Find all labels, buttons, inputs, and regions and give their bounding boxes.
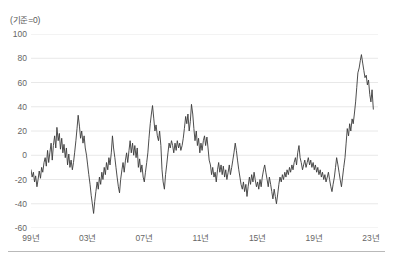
y-axis-note: (기준=0) [10,13,40,25]
x-axis-tick-label: 99년 [22,231,39,243]
x-axis-tick-label: 19년 [306,231,323,243]
x-axis-tick-label: 07년 [136,231,153,243]
y-axis-tick-label: 60 [18,78,27,88]
x-axis-tick-label: 23년 [362,231,379,243]
bottom-divider [8,251,385,252]
plot-area [31,34,378,228]
y-axis-tick-label: -40 [15,199,27,209]
line-chart-svg [31,34,378,228]
y-axis-tick-label: 0 [22,150,27,160]
y-axis-tick-label: 40 [18,102,27,112]
y-axis-tick-label: 100 [13,29,27,39]
x-axis-tick-label: 15년 [249,231,266,243]
y-axis-tick-label: 20 [18,126,27,136]
x-axis-tick-label: 11년 [193,231,210,243]
y-axis-tick-label: 80 [18,53,27,63]
series-line [31,55,373,214]
gridlines [31,34,378,228]
y-axis-tick-labels: 100806040200-20-40-60 [0,34,27,228]
x-axis-tick-label: 03년 [79,231,96,243]
x-axis-tick-labels: 99년03년07년11년15년19년23년 [31,231,378,247]
chart-container: (기준=0) 100806040200-20-40-60 99년03년07년11… [0,0,393,263]
y-axis-tick-label: -20 [15,175,27,185]
